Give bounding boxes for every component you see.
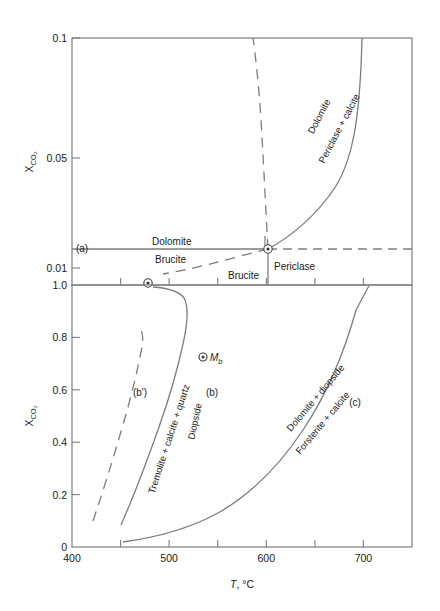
lower-ytick-label-1: 0.8 — [52, 331, 67, 343]
lower-yaxis-title-sub: CO₂ — [29, 405, 38, 419]
marker-Mb — [199, 353, 207, 361]
lower-ytick-label-3: 0.4 — [52, 436, 67, 448]
label-brucite-region: Brucite — [228, 270, 260, 281]
lower-ytick-label-4: 0.2 — [52, 489, 67, 501]
xaxis-title-unit: , °C — [236, 578, 254, 590]
tag-c: (c) — [349, 397, 361, 408]
label-dolomite-above-a: Dolomite — [152, 236, 192, 247]
xtick-label-500: 500 — [160, 552, 178, 564]
xtick-label-700: 700 — [355, 552, 373, 564]
xtick-label-400: 400 — [63, 552, 81, 564]
invariant-point-lowerleft-marker — [144, 279, 152, 287]
invariant-point-upper-marker — [264, 245, 272, 253]
upper-yaxis-title-main: X — [23, 166, 35, 173]
tag-b: (b) — [206, 387, 218, 398]
lower-yaxis-title-main: X — [23, 420, 35, 427]
upper-ytick-label-0: 0.1 — [52, 32, 67, 44]
upper-yaxis-title-sub: CO₂ — [29, 151, 38, 165]
label-periclase-region: Periclase — [274, 261, 316, 272]
marker-Mb-label-sub: b — [218, 357, 222, 366]
phase-diagram-svg: 0.1 0.05 0.01 XCO₂ — [0, 0, 440, 611]
figure-background — [0, 0, 440, 611]
lower-ytick-label-0: 1.0 — [52, 279, 67, 291]
upper-ytick-label-2: 0.01 — [47, 262, 68, 274]
tag-a: (a) — [76, 243, 88, 254]
tag-b-prime: (b') — [133, 387, 147, 398]
lower-ytick-label-2: 0.6 — [52, 384, 67, 396]
phase-diagram-figure: 0.1 0.05 0.01 XCO₂ — [0, 0, 440, 611]
xaxis-title: T, °C — [230, 578, 254, 590]
label-brucite-below-a: Brucite — [155, 254, 187, 265]
xtick-label-600: 600 — [258, 552, 276, 564]
upper-ytick-label-1: 0.05 — [47, 152, 68, 164]
